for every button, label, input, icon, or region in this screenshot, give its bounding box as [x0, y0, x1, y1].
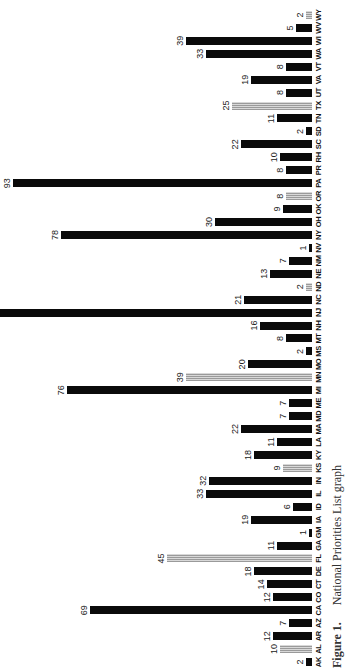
- bar-pa: 93: [0, 177, 312, 189]
- state-label: IN: [314, 475, 323, 487]
- state-label: WI: [314, 35, 323, 47]
- bar-fill: [286, 334, 312, 342]
- state-label: PR: [314, 164, 323, 176]
- bar-gm: 1: [0, 527, 312, 539]
- figure-caption: Figure 1. National Priorities List graph: [330, 465, 345, 668]
- state-label: FL: [314, 552, 323, 564]
- bar-fill: [186, 373, 312, 381]
- bar-or: 8: [0, 190, 312, 202]
- bar-fill: [273, 632, 312, 640]
- bar-mt: 8: [0, 332, 312, 344]
- bar-ma: 22: [0, 423, 312, 435]
- bar-fill: [232, 102, 313, 110]
- state-label: MS: [314, 345, 323, 357]
- state-label: PA: [314, 177, 323, 189]
- bar-fill: [273, 593, 312, 601]
- bar-fill: [241, 140, 312, 148]
- bar-ks: 9: [0, 462, 312, 474]
- state-label: SC: [314, 138, 323, 150]
- bar-fill: [254, 451, 312, 459]
- bar-fill: [167, 554, 312, 562]
- bar-mi: 76: [0, 384, 312, 396]
- state-label: OK: [314, 203, 323, 215]
- bar-wa: 33: [0, 48, 312, 60]
- state-label: CA: [314, 604, 323, 616]
- bar-wi: 39: [0, 35, 312, 47]
- bar-fill: [283, 464, 312, 472]
- state-label: NC: [314, 294, 323, 306]
- state-label: VT: [314, 61, 323, 73]
- bar-me: 7: [0, 397, 312, 409]
- state-label: TN: [314, 112, 323, 124]
- state-label: NY: [314, 229, 323, 241]
- state-label: ND: [314, 281, 323, 293]
- bar-id: 6: [0, 501, 312, 513]
- bar-fill: [306, 283, 312, 291]
- bar-fill: [260, 322, 312, 330]
- bar-ct: 14: [0, 578, 312, 590]
- bar-ak: 2: [0, 656, 312, 668]
- bar-fill: [215, 218, 312, 226]
- bar-fill: [277, 438, 312, 446]
- bar-ny: 78: [0, 229, 312, 241]
- bar-fill: [289, 257, 312, 265]
- bar-fill: [280, 153, 312, 161]
- state-label: MA: [314, 423, 323, 435]
- bar-fill: [306, 658, 312, 666]
- bar-nj: [0, 307, 312, 319]
- bar-fill: [289, 619, 312, 627]
- bar-fill: [306, 347, 312, 355]
- bar-mo: 20: [0, 358, 312, 370]
- bar-fill: [289, 399, 312, 407]
- bar-fill: [61, 231, 312, 239]
- bar-fill: [206, 490, 312, 498]
- bar-ga: 11: [0, 540, 312, 552]
- state-label: TX: [314, 100, 323, 112]
- bar-wy: 2: [0, 9, 312, 21]
- state-label: VA: [314, 74, 323, 86]
- bar-fill: [254, 567, 312, 575]
- bar-ne: 13: [0, 268, 312, 280]
- figure-title: National Priorities List graph: [330, 465, 344, 605]
- state-label: NE: [314, 268, 323, 280]
- state-label: GA: [314, 540, 323, 552]
- state-label: MI: [314, 384, 323, 396]
- state-label: MO: [314, 358, 323, 370]
- bar-il: 33: [0, 488, 312, 500]
- bar-ut: 8: [0, 87, 312, 99]
- state-label: WA: [314, 48, 323, 60]
- bar-tx: 25: [0, 100, 312, 112]
- state-label: CO: [314, 591, 323, 603]
- state-label: OR: [314, 190, 323, 202]
- bar-mn: 39: [0, 371, 312, 383]
- state-label: WV: [314, 22, 323, 34]
- bar-fill: [90, 606, 312, 614]
- state-label: WY: [314, 9, 323, 21]
- bar-fill: [306, 11, 312, 19]
- bar-oh: 30: [0, 216, 312, 228]
- bar-rh: 10: [0, 151, 312, 163]
- bar-fill: [277, 542, 312, 550]
- bar-ok: 9: [0, 203, 312, 215]
- state-label: NH: [314, 320, 323, 332]
- state-label: NV: [314, 242, 323, 254]
- bar-area: 2101276912141845111196333291811227776392…: [0, 8, 312, 668]
- bar-fill: [286, 89, 312, 97]
- rotated-chart: 2101276912141845111196333291811227776392…: [0, 0, 346, 672]
- bar-fill: [251, 76, 312, 84]
- figure-number: Figure 1.: [330, 622, 344, 668]
- bar-fill: [13, 179, 312, 187]
- bar-fill: [309, 529, 312, 537]
- bar-fill: [286, 63, 312, 71]
- state-label: ID: [314, 501, 323, 513]
- bar-in: 32: [0, 475, 312, 487]
- state-label: RH: [314, 151, 323, 163]
- state-label: CT: [314, 578, 323, 590]
- bar-fill: [283, 205, 312, 213]
- bar-fill: [0, 309, 312, 317]
- state-label: LA: [314, 436, 323, 448]
- state-label: NM: [314, 255, 323, 267]
- state-label: AZ: [314, 617, 323, 629]
- bar-vt: 8: [0, 61, 312, 73]
- bar-fill: [286, 192, 312, 200]
